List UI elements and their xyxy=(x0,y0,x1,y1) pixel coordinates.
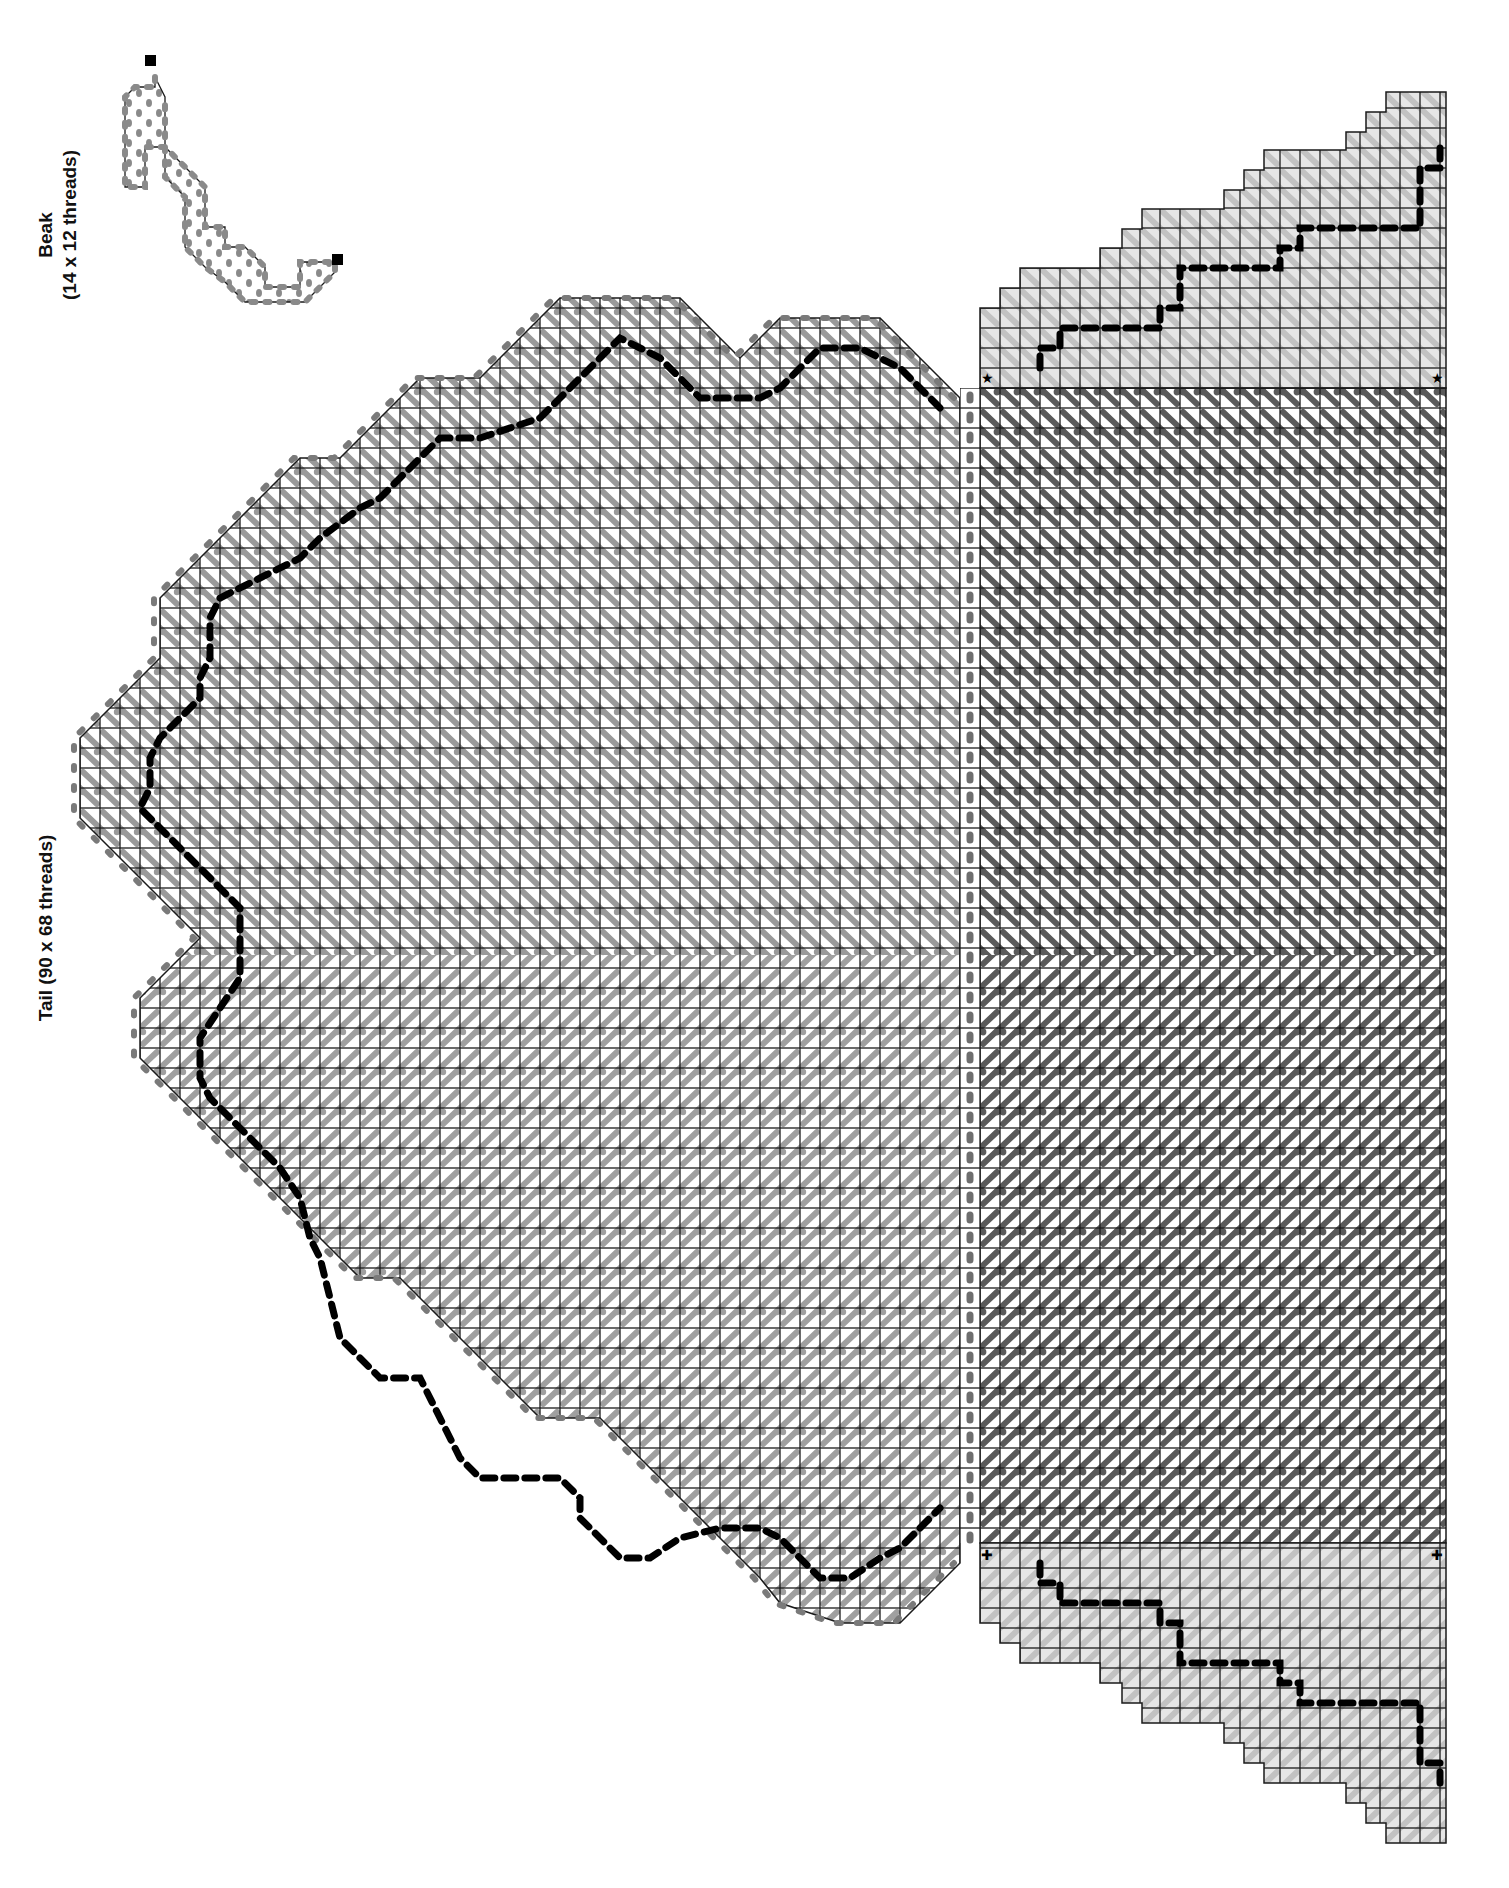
lower-panel xyxy=(980,1540,1450,1850)
beak-piece xyxy=(120,70,350,310)
body-rectangle xyxy=(960,388,1446,1543)
square-marker-icon xyxy=(332,254,343,265)
plus-marker-icon: ✚ xyxy=(1431,1547,1443,1563)
needlepoint-pattern-chart: ★ ★ ✚ ✚ xyxy=(0,0,1509,1888)
plus-marker-icon: ✚ xyxy=(981,1547,993,1563)
beak-size: (14 x 12 threads) xyxy=(58,170,82,300)
square-marker-icon xyxy=(145,55,156,66)
tail-label: Tail (90 x 68 threads) xyxy=(34,808,58,1048)
tail-piece xyxy=(60,280,960,1660)
upper-panel xyxy=(980,80,1450,390)
beak-label: Beak (14 x 12 threads) xyxy=(34,170,82,300)
star-marker-icon: ★ xyxy=(1431,370,1444,386)
star-marker-icon: ★ xyxy=(981,370,994,386)
beak-title: Beak xyxy=(34,170,58,300)
tail-title: Tail (90 x 68 threads) xyxy=(34,808,58,1048)
